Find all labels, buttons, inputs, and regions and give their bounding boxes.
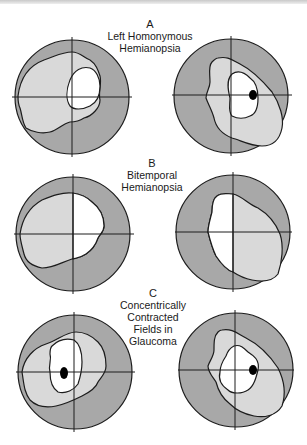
- panel-c-label: C Concentrically Contracted Fields in Gl…: [93, 287, 213, 347]
- panel-title-line: Left Homonymous: [90, 30, 210, 42]
- panel-b-label: B Bitemporal Hemianopsia: [92, 157, 212, 193]
- blind-spot-icon: [249, 365, 257, 375]
- blind-spot-icon: [60, 367, 68, 379]
- panel-title-line: Contracted: [93, 311, 213, 323]
- visual-field-diagram: [0, 0, 307, 445]
- panel-a-label: A Left Homonymous Hemianopsia: [90, 18, 210, 54]
- blind-spot-icon: [249, 90, 257, 100]
- panel-title-line: Hemianopsia: [92, 181, 212, 193]
- field-a-left-eye: [12, 37, 132, 157]
- panel-title-line: Fields in: [93, 323, 213, 335]
- panel-title-line: Glaucoma: [93, 335, 213, 347]
- panel-letter: B: [92, 157, 212, 169]
- panel-title-line: Concentrically: [93, 299, 213, 311]
- panel-letter: A: [90, 18, 210, 30]
- panel-letter: C: [93, 287, 213, 299]
- panel-title-line: Bitemporal: [92, 169, 212, 181]
- field-a-right-eye: [172, 36, 292, 156]
- panel-title-line: Hemianopsia: [90, 42, 210, 54]
